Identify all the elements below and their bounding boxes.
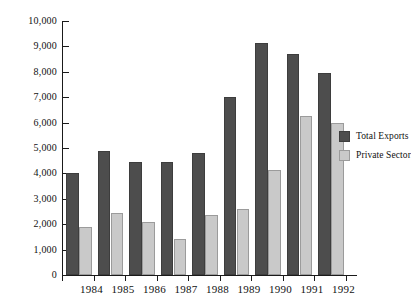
legend-label-private-sector: Private Sector: [356, 150, 411, 161]
x-tick: [157, 276, 158, 281]
y-tick: [63, 21, 69, 22]
x-tick: [346, 276, 347, 281]
y-tick-label: 0: [0, 270, 57, 280]
bar-total-exports-1987: [161, 162, 174, 275]
x-tick: [220, 276, 221, 281]
y-tick-label: 8,000: [0, 67, 57, 77]
y-tick-label: 2,000: [0, 219, 57, 229]
legend-swatch-private-sector: [339, 150, 350, 161]
y-tick: [63, 97, 69, 98]
y-tick: [63, 275, 69, 276]
legend-item-private-sector: Private Sector: [339, 150, 409, 161]
y-tick-label: 9,000: [0, 41, 57, 51]
y-tick-label: 4,000: [0, 168, 57, 178]
bar-total-exports-1989: [224, 97, 237, 275]
bar-private-sector-1987: [174, 239, 187, 275]
legend-label-total-exports: Total Exports: [356, 131, 409, 142]
x-axis-line: [62, 275, 357, 276]
x-tick: [283, 276, 284, 281]
bar-private-sector-1985: [111, 213, 124, 275]
bar-private-sector-1990: [268, 170, 281, 275]
bar-private-sector-1991: [300, 116, 313, 275]
bar-total-exports-1992: [318, 73, 331, 275]
x-tick: [314, 276, 315, 281]
x-tick: [251, 276, 252, 281]
x-tick: [62, 276, 63, 281]
chart-legend: Total Exports Private Sector: [339, 131, 409, 169]
y-tick-label: 1,000: [0, 245, 57, 255]
y-tick: [63, 46, 69, 47]
y-tick-label: 7,000: [0, 92, 57, 102]
y-tick: [63, 123, 69, 124]
bar-total-exports-1986: [129, 162, 142, 275]
legend-item-total-exports: Total Exports: [339, 131, 409, 142]
y-tick-label: 3,000: [0, 194, 57, 204]
x-tick: [125, 276, 126, 281]
bar-private-sector-1988: [205, 215, 218, 275]
x-tick: [94, 276, 95, 281]
bar-private-sector-1984: [79, 227, 92, 275]
y-tick-label: 6,000: [0, 118, 57, 128]
y-tick: [63, 148, 69, 149]
bar-private-sector-1989: [237, 209, 250, 275]
bar-total-exports-1985: [98, 151, 111, 275]
y-tick-label: 10,000: [0, 16, 57, 26]
y-tick-label: 5,000: [0, 143, 57, 153]
y-tick: [63, 72, 69, 73]
bar-total-exports-1991: [287, 54, 300, 275]
legend-swatch-total-exports: [339, 131, 350, 142]
x-tick: [188, 276, 189, 281]
bar-private-sector-1986: [142, 222, 155, 275]
bar-total-exports-1990: [255, 43, 268, 275]
bar-total-exports-1984: [66, 173, 79, 275]
bar-total-exports-1988: [192, 153, 205, 275]
x-tick-label-1992: 1992: [324, 283, 364, 295]
